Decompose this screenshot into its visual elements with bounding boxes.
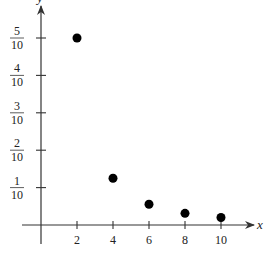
- y-tick-denominator: 10: [11, 188, 23, 202]
- data-points: [73, 34, 226, 223]
- y-tick-denominator: 10: [11, 113, 23, 127]
- data-point: [181, 209, 190, 218]
- x-tick-label: 2: [74, 233, 80, 247]
- y-tick-denominator: 10: [11, 38, 23, 52]
- x-tick-label: 8: [182, 233, 188, 247]
- x-tick-label: 10: [215, 233, 227, 247]
- y-tick-denominator: 10: [11, 150, 23, 164]
- axes: x y: [22, 0, 263, 244]
- y-tick-numerator: 5: [14, 24, 20, 38]
- x-tick-label: 6: [146, 233, 152, 247]
- y-tick-numerator: 4: [14, 61, 20, 75]
- y-tick-numerator: 2: [14, 136, 20, 150]
- y-tick-numerator: 3: [14, 99, 20, 113]
- y-tick-denominator: 10: [11, 75, 23, 89]
- x-tick-label: 4: [110, 233, 116, 247]
- y-tick-numerator: 1: [14, 174, 20, 188]
- x-axis-label: x: [256, 217, 263, 232]
- data-point: [109, 174, 118, 183]
- data-point: [145, 200, 154, 209]
- y-axis-label: y: [35, 0, 43, 5]
- data-point: [217, 213, 226, 222]
- scatter-chart: x y 246810 110210310410510: [0, 0, 280, 262]
- data-point: [73, 34, 82, 43]
